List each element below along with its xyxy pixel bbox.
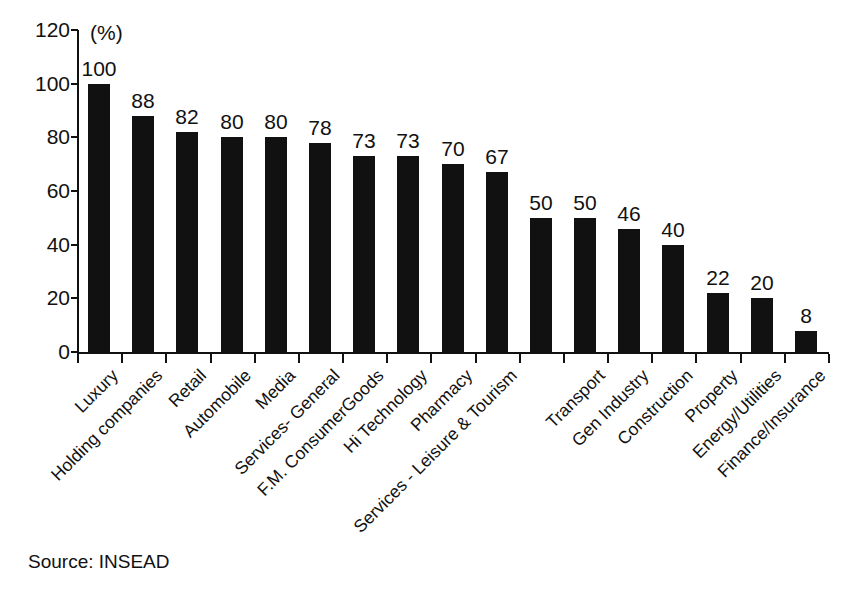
bar xyxy=(751,298,773,352)
bar-value-label: 40 xyxy=(643,219,703,240)
x-tick-mark xyxy=(695,354,697,363)
x-tick-mark xyxy=(828,354,830,363)
bar xyxy=(176,132,198,352)
chart-figure: (%) 020406080100120 10088828080787373706… xyxy=(0,0,845,602)
bar xyxy=(353,156,375,352)
bar xyxy=(662,245,684,352)
plot-area xyxy=(77,30,828,352)
bar-value-label: 100 xyxy=(69,58,129,79)
x-tick-mark xyxy=(77,354,79,363)
x-tick-mark xyxy=(607,354,609,363)
x-tick-mark xyxy=(210,354,212,363)
bar xyxy=(265,137,287,352)
bar xyxy=(132,116,154,352)
bar xyxy=(795,331,817,352)
y-tick-label-wrap: 80 xyxy=(14,126,70,147)
y-tick-label-wrap: 0 xyxy=(14,341,70,362)
y-tick-label: 60 xyxy=(24,180,70,201)
y-tick-label: 120 xyxy=(24,19,70,40)
bar xyxy=(530,218,552,352)
y-tick-label: 40 xyxy=(24,234,70,255)
source-note: Source: INSEAD xyxy=(28,551,170,573)
y-tick-label-wrap: 40 xyxy=(14,234,70,255)
x-tick-mark xyxy=(254,354,256,363)
bar xyxy=(309,143,331,352)
bar-value-label: 8 xyxy=(776,305,836,326)
bar xyxy=(88,84,110,352)
bar xyxy=(707,293,729,352)
y-tick-label: 20 xyxy=(24,287,70,308)
x-axis-line xyxy=(77,352,829,354)
x-tick-mark xyxy=(784,354,786,363)
bar-value-label: 67 xyxy=(467,146,527,167)
x-tick-mark xyxy=(519,354,521,363)
x-tick-mark xyxy=(121,354,123,363)
x-tick-mark xyxy=(386,354,388,363)
x-tick-mark xyxy=(475,354,477,363)
bar xyxy=(397,156,419,352)
x-tick-mark xyxy=(563,354,565,363)
x-tick-mark xyxy=(740,354,742,363)
bar xyxy=(442,164,464,352)
bar xyxy=(574,218,596,352)
y-tick-label-wrap: 20 xyxy=(14,287,70,308)
x-tick-mark xyxy=(298,354,300,363)
y-tick-label-wrap: 120 xyxy=(14,19,70,40)
y-tick-label: 80 xyxy=(24,126,70,147)
bar xyxy=(486,172,508,352)
y-tick-label: 0 xyxy=(24,341,70,362)
bar xyxy=(221,137,243,352)
y-tick-label: 100 xyxy=(24,73,70,94)
x-tick-mark xyxy=(165,354,167,363)
bar-value-label: 20 xyxy=(732,272,792,293)
y-tick-label-wrap: 60 xyxy=(14,180,70,201)
y-tick-label-wrap: 100 xyxy=(14,73,70,94)
bar xyxy=(618,229,640,352)
x-tick-mark xyxy=(651,354,653,363)
x-tick-mark xyxy=(430,354,432,363)
x-tick-mark xyxy=(342,354,344,363)
